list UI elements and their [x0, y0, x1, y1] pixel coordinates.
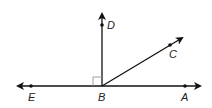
label-a: A [181, 92, 188, 103]
label-e: E [28, 92, 35, 103]
point-d [100, 23, 104, 27]
point-e [29, 84, 33, 88]
point-c [168, 43, 172, 47]
label-c: C [169, 49, 177, 60]
point-a [183, 84, 187, 88]
right-angle-marker [93, 77, 102, 86]
label-b: B [98, 92, 105, 103]
label-d: D [107, 20, 115, 31]
